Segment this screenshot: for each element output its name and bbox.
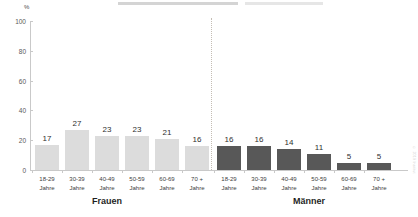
group-divider <box>211 18 212 170</box>
x-axis-tick-mark <box>122 170 123 173</box>
bar-männer-6069[interactable] <box>337 163 361 170</box>
x-axis-tick-mark <box>32 170 33 173</box>
x-axis-tick-mark <box>152 170 153 173</box>
category-label-range: 70 + <box>359 175 399 184</box>
bar-value-label: 5 <box>332 152 366 161</box>
bar-frauen-70+[interactable] <box>185 146 209 170</box>
bar-frauen-4049[interactable] <box>95 136 119 170</box>
top-decoration-strip-secondary <box>245 2 323 5</box>
bar-value-label: 11 <box>302 143 336 152</box>
bar-value-label: 16 <box>180 135 214 144</box>
bar-männer-70+[interactable] <box>367 163 391 170</box>
x-axis-baseline <box>30 170 408 171</box>
bar-männer-1829[interactable] <box>217 146 241 170</box>
bar-frauen-6069[interactable] <box>155 139 179 170</box>
x-axis-tick-mark <box>182 170 183 173</box>
y-axis-tick-mark <box>30 21 33 22</box>
y-axis-tick-mark <box>30 110 33 111</box>
y-axis-line <box>30 21 31 170</box>
bar-chart: % 100806040200 1727232321161616141155 18… <box>0 0 418 217</box>
bar-value-label: 16 <box>212 135 246 144</box>
y-axis-tick-label: 40 <box>0 107 30 114</box>
x-axis-tick-mark <box>214 170 215 173</box>
source-credit: © 2019 Institut <box>412 146 416 174</box>
x-axis-tick-mark <box>92 170 93 173</box>
bar-value-label: 21 <box>150 128 184 137</box>
bar-value-label: 16 <box>242 135 276 144</box>
bar-männer-4049[interactable] <box>277 149 301 170</box>
category-label: 70 +Jahre <box>359 175 399 192</box>
bar-frauen-3039[interactable] <box>65 130 89 170</box>
bar-value-label: 17 <box>30 134 64 143</box>
y-axis-tick-label: 100 <box>0 18 30 25</box>
bar-frauen-1829[interactable] <box>35 145 59 170</box>
x-axis-tick-mark <box>274 170 275 173</box>
bar-value-label: 27 <box>60 119 94 128</box>
y-axis-tick-label: 80 <box>0 47 30 54</box>
x-axis-tick-mark <box>304 170 305 173</box>
bar-value-label: 23 <box>120 125 154 134</box>
y-axis-tick-label: 20 <box>0 137 30 144</box>
category-label-unit: Jahre <box>359 184 399 193</box>
group-label-frauen: Frauen <box>47 196 167 206</box>
x-axis-tick-mark <box>364 170 365 173</box>
y-axis-tick-label: 0 <box>0 167 30 174</box>
y-axis-unit-label: % <box>24 4 29 10</box>
x-axis-tick-mark <box>334 170 335 173</box>
bar-frauen-5059[interactable] <box>125 136 149 170</box>
bar-value-label: 23 <box>90 125 124 134</box>
x-axis-tick-mark <box>244 170 245 173</box>
group-label-maenner: Männer <box>249 196 369 206</box>
y-axis-tick-mark <box>30 51 33 52</box>
y-axis-tick-mark <box>30 81 33 82</box>
top-decoration-strip <box>118 2 238 5</box>
bar-value-label: 5 <box>362 152 396 161</box>
bar-value-label: 14 <box>272 138 306 147</box>
bar-männer-3039[interactable] <box>247 146 271 170</box>
bar-männer-5059[interactable] <box>307 154 331 170</box>
x-axis-tick-mark <box>62 170 63 173</box>
y-axis-tick-label: 60 <box>0 77 30 84</box>
